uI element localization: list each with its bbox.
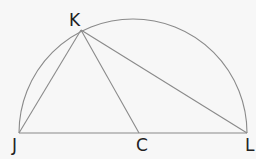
segment-kl (81, 30, 247, 133)
point-label-l: L (245, 137, 254, 154)
point-label-k: K (69, 12, 80, 29)
segment-kj (19, 30, 81, 133)
geometry-diagram: K J C L (0, 0, 256, 159)
point-label-c: C (136, 137, 148, 154)
diagram-canvas (0, 0, 256, 159)
point-label-j: J (12, 137, 17, 154)
segment-kc (81, 30, 139, 133)
